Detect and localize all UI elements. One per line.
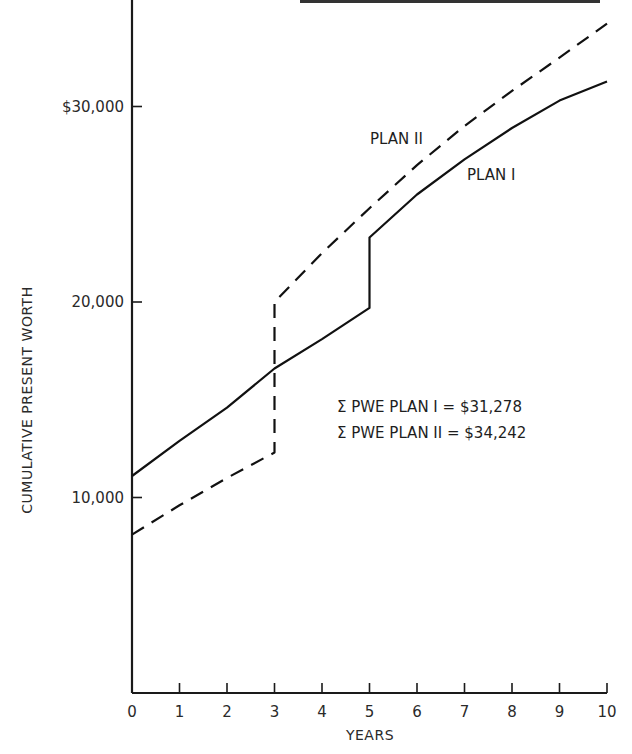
chart: 01234567891010,00020,000$30,000 YEARS CU… — [0, 0, 632, 754]
axes — [132, 0, 607, 693]
annotation-plan-2: Σ PWE PLAN II = $34,242 — [337, 424, 526, 442]
y-tick-label: $30,000 — [62, 98, 124, 116]
series-lines — [132, 24, 607, 535]
x-tick-label: 7 — [460, 703, 470, 721]
y-axis-title: CUMULATIVE PRESENT WORTH — [19, 286, 35, 513]
label-plan-1: PLAN I — [467, 166, 515, 184]
x-tick-label: 9 — [555, 703, 565, 721]
x-tick-label: 4 — [317, 703, 327, 721]
x-tick-label: 10 — [597, 703, 616, 721]
annotation-plan-1: Σ PWE PLAN I = $31,278 — [337, 398, 522, 416]
x-tick-label: 1 — [175, 703, 185, 721]
y-tick-label: 20,000 — [72, 293, 125, 311]
label-plan-2: PLAN II — [370, 130, 423, 148]
x-tick-label: 0 — [127, 703, 137, 721]
x-tick-label: 6 — [412, 703, 422, 721]
x-axis-title: YEARS — [345, 727, 394, 743]
x-tick-label: 2 — [222, 703, 232, 721]
x-tick-label: 3 — [270, 703, 280, 721]
x-tick-label: 5 — [365, 703, 375, 721]
x-tick-label: 8 — [507, 703, 517, 721]
y-tick-label: 10,000 — [72, 489, 125, 507]
